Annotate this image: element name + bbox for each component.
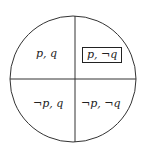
quadrant-label-top-left: p, q [36, 48, 57, 60]
quadrant-label-top-right-highlighted: p, ¬q [82, 47, 122, 63]
quadrant-label-bottom-left: ¬p, q [33, 98, 63, 110]
quadrant-circle-diagram [0, 0, 144, 150]
quadrant-label-bottom-right: ¬p, ¬q [81, 98, 121, 110]
